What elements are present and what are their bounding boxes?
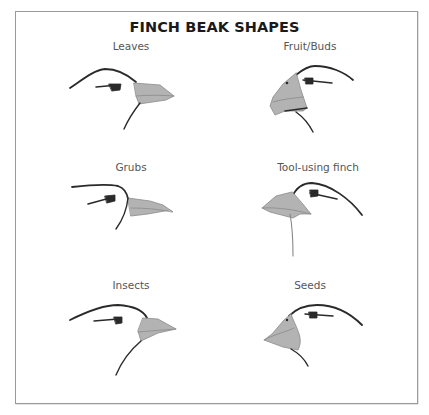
beak-seeds — [264, 314, 300, 350]
finch-head-grubs — [72, 185, 173, 229]
beak-tool-using — [262, 192, 311, 218]
finch-head-seeds — [264, 305, 362, 366]
finch-head-leaves — [70, 69, 174, 129]
beak-grubs — [128, 198, 173, 216]
finch-head-fruit-buds — [270, 66, 353, 132]
beak-leaves — [134, 83, 174, 104]
finch-head-insects — [70, 305, 176, 375]
finch-head-tool-using — [262, 183, 362, 256]
